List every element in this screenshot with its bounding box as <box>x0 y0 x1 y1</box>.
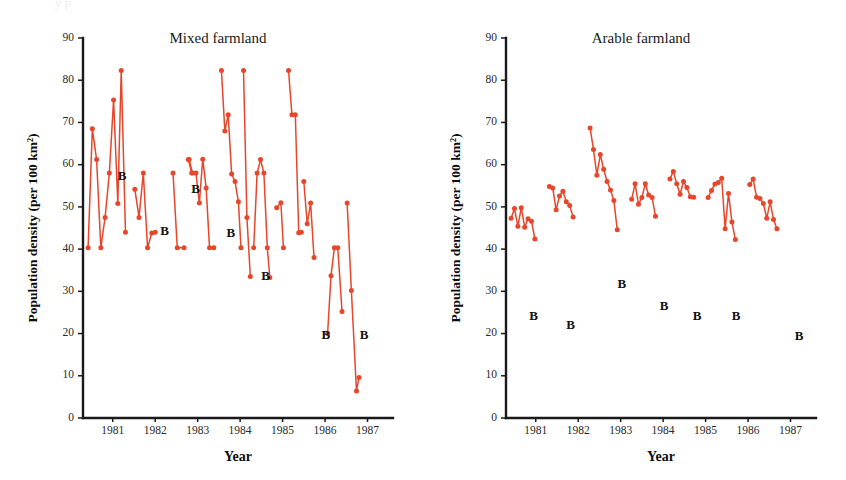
series-line-segment-3 <box>590 128 617 230</box>
data-point <box>512 206 517 211</box>
data-point <box>255 171 260 176</box>
data-point <box>522 225 527 230</box>
y-tick-label-20: 20 <box>486 326 498 338</box>
data-point <box>509 216 514 221</box>
data-point <box>671 169 676 174</box>
chart-svg-arable-farmland: 0102030405060708090198119821983198419851… <box>423 0 846 480</box>
y-tick-label-60: 60 <box>63 157 75 169</box>
data-point <box>643 181 648 186</box>
data-point <box>197 201 202 206</box>
data-point <box>345 201 350 206</box>
data-point <box>111 98 116 103</box>
data-point <box>222 128 227 133</box>
y-tick-label-60: 60 <box>486 157 498 169</box>
data-point <box>519 205 524 210</box>
data-point <box>771 217 776 222</box>
data-point <box>281 245 286 250</box>
series-line-segment-8 <box>254 160 270 278</box>
data-point <box>723 226 728 231</box>
series-line-segment-6 <box>708 178 735 239</box>
x-tick-label-1987: 1987 <box>356 424 379 436</box>
data-point <box>244 215 249 220</box>
data-point <box>601 167 606 172</box>
data-point <box>678 192 683 197</box>
x-tick-label-1985: 1985 <box>271 424 294 436</box>
data-point <box>761 201 766 206</box>
data-point <box>335 245 340 250</box>
data-point <box>261 171 266 176</box>
annotation-b: B <box>160 223 169 238</box>
data-point <box>774 226 779 231</box>
chart-svg-mixed-farmland: 0102030405060708090198119821983198419851… <box>0 0 423 480</box>
data-point <box>557 193 562 198</box>
data-point <box>591 147 596 152</box>
data-point <box>681 179 686 184</box>
series-line-segment-2 <box>135 173 155 248</box>
y-tick-label-40: 40 <box>486 242 498 254</box>
data-point <box>768 199 773 204</box>
data-point <box>529 219 534 224</box>
data-point <box>226 112 231 117</box>
series-line-segment-1 <box>88 71 125 248</box>
data-point <box>187 157 192 162</box>
data-point <box>200 157 205 162</box>
annotation-b: B <box>795 328 804 343</box>
data-point <box>211 245 216 250</box>
y-tick-label-80: 80 <box>486 73 498 85</box>
y-tick-label-90: 90 <box>486 31 498 43</box>
x-tick-label-1984: 1984 <box>229 424 252 436</box>
x-tick-label-1981: 1981 <box>524 424 547 436</box>
y-axis-title: Population density (per 100 km²) <box>25 133 40 322</box>
data-point <box>611 198 616 203</box>
y-tick-label-20: 20 <box>63 326 75 338</box>
data-point <box>115 201 120 206</box>
annotation-b: B <box>566 317 575 332</box>
y-tick-label-0: 0 <box>68 411 74 423</box>
data-point <box>229 171 234 176</box>
data-point <box>653 214 658 219</box>
annotation-b: B <box>360 327 369 342</box>
data-point <box>564 199 569 204</box>
x-axis-title: Year <box>647 449 675 464</box>
chart-panel-mixed-farmland: 0102030405060708090198119821983198419851… <box>0 0 423 480</box>
data-point <box>650 195 655 200</box>
data-point <box>233 179 238 184</box>
data-point <box>329 273 334 278</box>
data-point <box>153 230 158 235</box>
x-tick-label-1983: 1983 <box>609 424 632 436</box>
data-point <box>629 197 634 202</box>
y-tick-label-50: 50 <box>63 200 75 212</box>
data-point <box>98 245 103 250</box>
y-tick-label-30: 30 <box>63 284 75 296</box>
data-point <box>667 177 672 182</box>
y-tick-label-70: 70 <box>63 115 75 127</box>
data-point <box>241 68 246 73</box>
data-point <box>340 309 345 314</box>
data-point <box>175 245 180 250</box>
chart-panel-arable-farmland: 0102030405060708090198119821983198419851… <box>423 0 846 480</box>
annotation-b: B <box>732 308 741 323</box>
data-point <box>560 189 565 194</box>
data-point <box>238 245 243 250</box>
x-tick-label-1982: 1982 <box>144 424 167 436</box>
series-line-segment-10 <box>289 71 302 233</box>
series-line-segment-13 <box>347 203 359 391</box>
y-tick-label-10: 10 <box>486 368 498 380</box>
x-tick-label-1981: 1981 <box>101 424 124 436</box>
data-point <box>588 125 593 130</box>
annotation-b: B <box>322 327 331 342</box>
data-point <box>308 201 313 206</box>
data-point <box>751 177 756 182</box>
series-line-segment-6 <box>221 71 241 248</box>
data-point <box>219 68 224 73</box>
data-point <box>137 215 142 220</box>
x-tick-label-1987: 1987 <box>779 424 802 436</box>
annotation-b: B <box>529 308 538 323</box>
data-point <box>598 152 603 157</box>
y-tick-label-50: 50 <box>486 200 498 212</box>
data-point <box>684 185 689 190</box>
data-point <box>550 185 555 190</box>
data-point <box>594 173 599 178</box>
data-point <box>726 191 731 196</box>
data-point <box>608 188 613 193</box>
